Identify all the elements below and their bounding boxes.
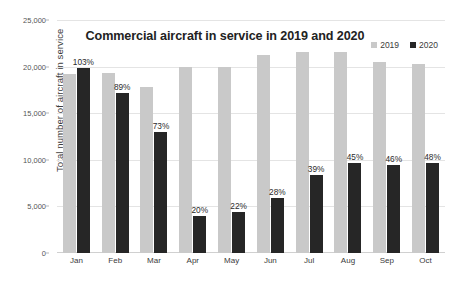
x-axis-tick-label: Sep (367, 256, 406, 265)
bar-2019[interactable] (296, 52, 309, 253)
bar-2020[interactable]: 48% (426, 163, 439, 253)
y-axis-tick-mark (46, 206, 49, 207)
bar-data-label: 45% (347, 152, 364, 162)
bar-2020[interactable]: 39% (310, 175, 323, 253)
bar-groups: 103%89%73%20%22%28%39%45%46%48% (57, 20, 445, 253)
bar-2020[interactable]: 45% (348, 163, 361, 253)
bar-2020[interactable]: 20% (193, 216, 206, 253)
y-axis-tick-mark (46, 66, 49, 67)
bar-data-label: 48% (424, 152, 441, 162)
x-axis-tick-label: Feb (96, 256, 135, 265)
bar-2019[interactable] (412, 64, 425, 253)
bar-2020[interactable]: 89% (116, 93, 129, 253)
bar-data-label: 39% (308, 164, 325, 174)
bar-group: 46% (367, 20, 406, 253)
y-axis-tick-label: 25,000 (23, 16, 46, 25)
y-axis-tick-label: 10,000 (23, 155, 46, 164)
x-axis-labels: JanFebMarAprMayJunJulAugSepOct (57, 256, 445, 265)
bar-2020[interactable]: 28% (271, 198, 284, 253)
bar-group: 39% (290, 20, 329, 253)
bar-data-label: 20% (191, 205, 208, 215)
x-axis-tick-label: Jan (57, 256, 96, 265)
bar-data-label: 46% (385, 154, 402, 164)
y-axis-tick-label: 15,000 (23, 109, 46, 118)
bar-2019[interactable] (334, 52, 347, 253)
y-axis-tick-label: 20,000 (23, 62, 46, 71)
bar-2019[interactable] (257, 55, 270, 253)
bar-2020[interactable]: 22% (232, 212, 245, 253)
bar-2019[interactable] (102, 73, 115, 253)
bar-2019[interactable] (179, 67, 192, 253)
x-axis-tick-label: Mar (135, 256, 174, 265)
bar-2020[interactable]: 103% (77, 68, 90, 253)
bar-group: 45% (329, 20, 368, 253)
bar-data-label: 89% (114, 82, 131, 92)
bar-group: 73% (135, 20, 174, 253)
x-axis-tick-label: Apr (173, 256, 212, 265)
y-axis-tick-label: 5,000 (27, 202, 46, 211)
bar-2020[interactable]: 46% (387, 165, 400, 253)
y-axis-tick-mark (46, 113, 49, 114)
plot-area: Total number of aircraft in service 05,0… (57, 20, 445, 253)
bar-group: 22% (212, 20, 251, 253)
x-axis-tick-label: Aug (329, 256, 368, 265)
bar-data-label: 28% (269, 187, 286, 197)
bar-2019[interactable] (140, 87, 153, 253)
y-axis-tick-mark (46, 159, 49, 160)
bar-data-label: 22% (230, 201, 247, 211)
bar-group: 48% (406, 20, 445, 253)
chart-container: Commercial aircraft in service in 2019 a… (0, 0, 450, 290)
x-axis-tick-label: Jul (290, 256, 329, 265)
y-axis-tick-mark (46, 253, 49, 254)
bar-2019[interactable] (63, 74, 76, 253)
bar-group: 89% (96, 20, 135, 253)
x-axis-tick-label: Oct (406, 256, 445, 265)
bar-2020[interactable]: 73% (154, 132, 167, 253)
bar-group: 20% (173, 20, 212, 253)
bar-data-label: 73% (153, 121, 170, 131)
bar-group: 28% (251, 20, 290, 253)
x-axis-tick-label: May (212, 256, 251, 265)
bar-group: 103% (57, 20, 96, 253)
bar-2019[interactable] (218, 67, 231, 253)
bar-data-label: 103% (73, 57, 94, 67)
y-axis-tick-mark (46, 20, 49, 21)
x-axis-tick-label: Jun (251, 256, 290, 265)
bar-2019[interactable] (373, 62, 386, 253)
